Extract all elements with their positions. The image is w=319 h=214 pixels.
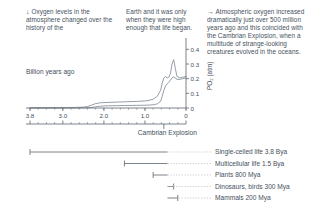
diagram-canvas: ↓ Oxygen levels in the atmosphere change… xyxy=(0,0,319,214)
timeline-event-label: Single-celled life 3.8 Bya xyxy=(215,148,287,156)
y-tick-label: 0.1 xyxy=(191,90,200,97)
x-tick-label: 3.8 xyxy=(24,112,36,119)
timeline-event-label: Plants 800 Mya xyxy=(215,171,260,179)
x-axis-label: Billion years ago xyxy=(26,68,74,75)
timeline-event-label: Multicellular life 1.5 Bya xyxy=(215,160,284,168)
timeline-bars-group xyxy=(30,149,212,201)
y-tick-label: 0 xyxy=(191,105,194,112)
cambrian-explosion-axis-label: Cambrian Explosion xyxy=(138,129,197,136)
x-tick-label: 2.0 xyxy=(98,112,110,119)
y-tick-label: 0.3 xyxy=(191,61,200,68)
x-tick-label: 0 xyxy=(180,112,192,119)
y-axis-label: PO₂ (atm) xyxy=(206,62,213,90)
timeline-event-label: Dinosaurs, birds 300 Mya xyxy=(215,183,290,191)
timeline-event-label: Mammals 200 Mya xyxy=(215,194,271,202)
y-tick-label: 0.2 xyxy=(191,75,200,82)
chart-series-group xyxy=(30,60,186,108)
x-tick-label: 3.0 xyxy=(57,112,69,119)
chart-line-1 xyxy=(30,60,186,108)
x-tick-label: 1.0 xyxy=(139,112,151,119)
y-tick-label: 0.4 xyxy=(191,46,200,53)
